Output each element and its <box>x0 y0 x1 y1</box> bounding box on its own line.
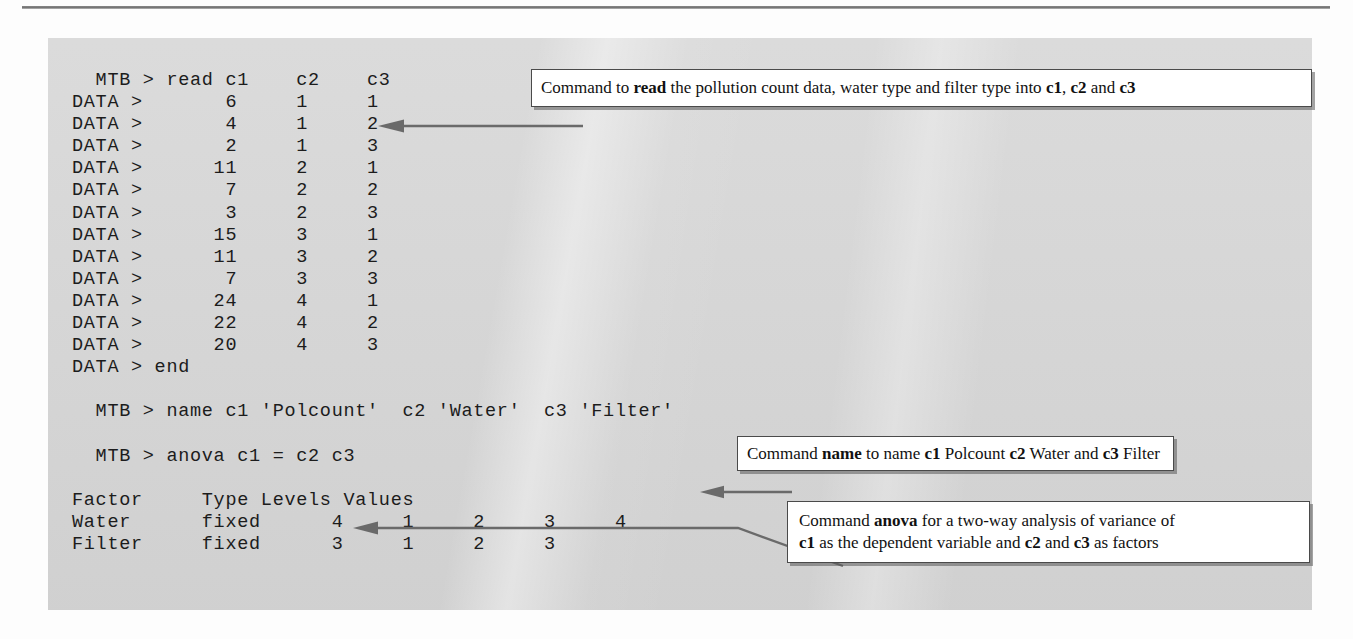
callout-read-text: Command to read the pollution count data… <box>532 77 1145 99</box>
scanned-page: MTB > read c1 c2 c3 DATA > 6 1 1 DATA > … <box>0 0 1353 639</box>
callout-name-command: Command name to name c1 Polcount c2 Wate… <box>737 436 1174 471</box>
leader-line-anova <box>298 478 843 574</box>
leader-line-read <box>378 118 583 134</box>
callout-name-text: Command name to name c1 Polcount c2 Wate… <box>738 443 1169 465</box>
page-top-rule <box>22 6 1330 9</box>
callout-anova-text: Command anova for a two-way analysis of … <box>788 510 1186 554</box>
callout-anova-command: Command anova for a two-way analysis of … <box>787 501 1310 563</box>
callout-read-command: Command to read the pollution count data… <box>531 69 1312 107</box>
